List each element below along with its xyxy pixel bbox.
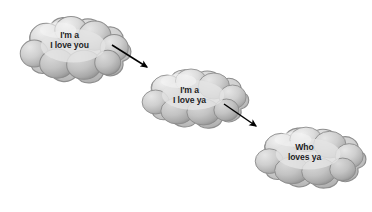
clouds-and-arrows-layer [0, 0, 372, 212]
cloud-2 [142, 69, 249, 128]
cloud-3 [255, 127, 366, 188]
cloud-1 [20, 17, 131, 83]
diagram-canvas: I'm a I love you I'm a I love ya Who lov… [0, 0, 372, 212]
